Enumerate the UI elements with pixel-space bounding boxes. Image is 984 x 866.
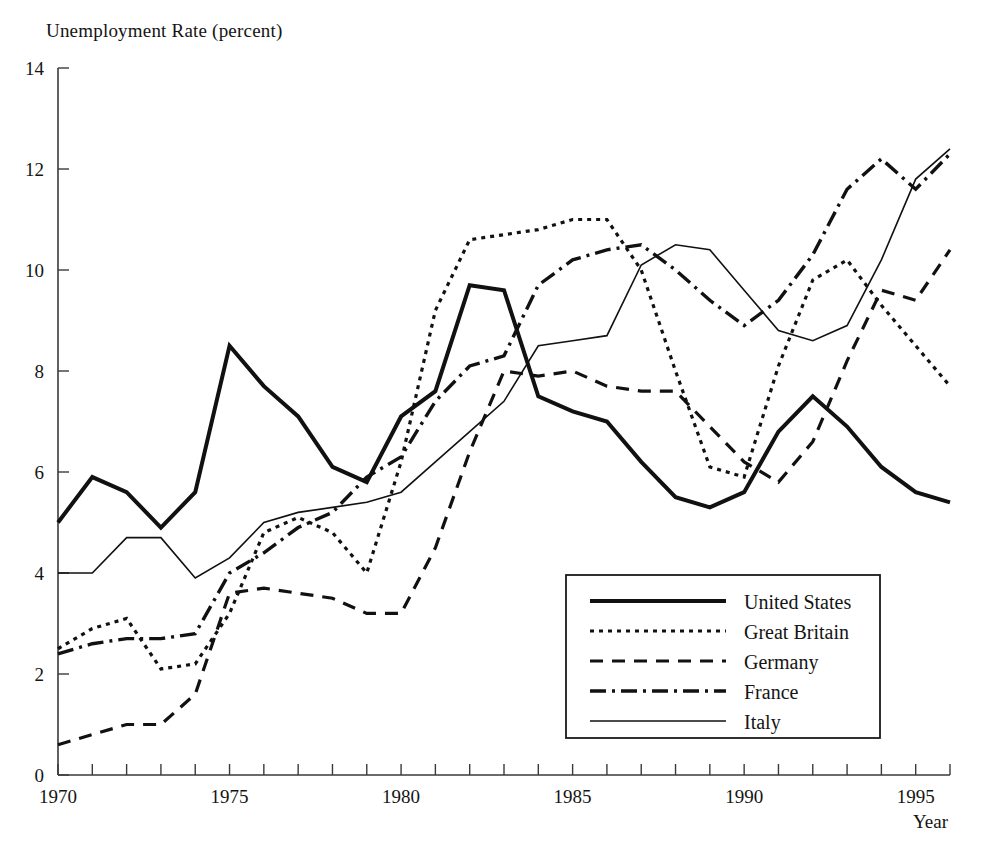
series-line-italy	[58, 149, 950, 578]
x-axis-tick-label: 1970	[39, 786, 77, 807]
x-axis-tick-label: 1975	[211, 786, 249, 807]
legend-label-germany: Germany	[744, 651, 818, 674]
y-axis-tick-label: 12	[25, 159, 44, 180]
y-axis-tick-label: 4	[35, 563, 45, 584]
y-axis-tick-label: 14	[25, 58, 45, 79]
axis-names: Year	[913, 811, 949, 832]
x-axis-tick-label: 1995	[897, 786, 935, 807]
legend-label-united-states: United States	[744, 591, 851, 613]
x-axis-tick-label: 1980	[382, 786, 420, 807]
x-axis-tick-label: 1990	[725, 786, 763, 807]
legend-label-great-britain: Great Britain	[744, 621, 849, 643]
legend-label-france: France	[744, 681, 799, 703]
chart-legend: United StatesGreat BritainGermanyFranceI…	[566, 575, 880, 738]
y-axis-tick-label: 8	[35, 361, 45, 382]
x-axis-label: Year	[913, 811, 949, 832]
x-axis-tick-label: 1985	[554, 786, 592, 807]
unemployment-rate-chart-figure: Unemployment Rate (percent) 02468101214 …	[0, 0, 984, 866]
chart-plot-area: 02468101214 197019751980198519901995 Uni…	[0, 0, 984, 866]
y-axis-tick-label: 0	[35, 765, 45, 786]
y-axis-tick-label: 10	[25, 260, 44, 281]
x-axis: 197019751980198519901995	[39, 764, 950, 807]
y-axis-tick-label: 2	[35, 664, 45, 685]
y-axis: 02468101214	[25, 58, 69, 786]
legend-label-italy: Italy	[744, 711, 781, 734]
y-axis-tick-label: 6	[35, 462, 45, 483]
series-line-united-states	[58, 285, 950, 527]
